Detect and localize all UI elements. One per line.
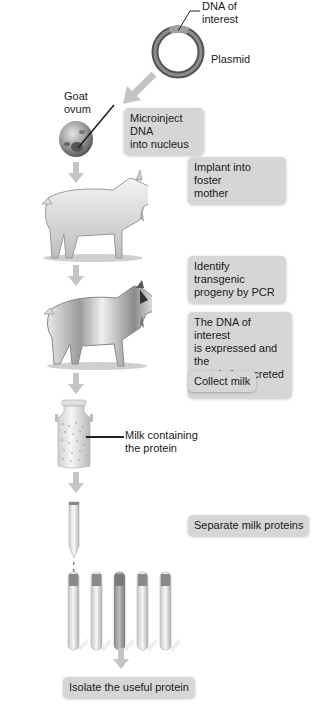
step-identify-box: Identify transgenic progeny by PCR (188, 256, 286, 303)
step-implant-line1: Implant into foster (194, 161, 280, 187)
chromatography-column-icon (67, 500, 81, 574)
step-identify-line2: progeny by PCR (194, 286, 280, 299)
dna-label-line1: DNA of (202, 0, 238, 13)
step-isolate-line1: Isolate the useful protein (69, 681, 189, 694)
test-tube-icon (137, 572, 157, 652)
step-isolate-box: Isolate the useful protein (63, 677, 195, 698)
step-microinject-line1: Microinject DNA (130, 112, 198, 138)
step-microinject-line2: into nucleus (130, 138, 198, 151)
down-arrow-icon (120, 70, 160, 106)
step-collect-line1: Collect milk (194, 375, 250, 388)
test-tube-icon (91, 572, 111, 652)
goat-icon (18, 168, 148, 263)
step-identify-line1: Identify transgenic (194, 260, 280, 286)
goat-ovum-line1: Goat (64, 90, 91, 103)
step-collect-box: Collect milk (188, 371, 256, 392)
down-arrow-icon (68, 373, 84, 395)
test-tube-icon (114, 572, 134, 652)
milk-label-line1: Milk containing (125, 429, 198, 442)
dna-pointer-line (178, 6, 200, 32)
dna-label-line2: interest (202, 13, 238, 26)
test-tube-icon (160, 572, 180, 652)
transgenic-goat-icon (22, 280, 152, 372)
milk-label: Milk containing the protein (125, 429, 198, 455)
step-implant-line2: mother (194, 187, 280, 200)
step-separate-line1: Separate milk proteins (194, 519, 303, 532)
micropipette-icon (76, 104, 116, 150)
down-arrow-icon (68, 472, 84, 494)
milk-label-line2: the protein (125, 442, 198, 455)
test-tube-icon (68, 572, 88, 652)
test-tube-rack (66, 570, 186, 654)
step-expressed-line1: The DNA of interest (194, 316, 286, 342)
dna-of-interest-label: DNA of interest (202, 0, 238, 26)
step-implant-box: Implant into foster mother (188, 157, 286, 204)
milk-can-icon (54, 398, 94, 470)
plasmid-label: Plasmid (211, 53, 250, 66)
step-expressed-line2: is expressed and the (194, 342, 286, 368)
milk-pointer-line (86, 436, 124, 438)
step-separate-box: Separate milk proteins (188, 515, 309, 536)
down-arrow-icon (113, 648, 129, 670)
step-microinject-box: Microinject DNA into nucleus (124, 108, 204, 155)
